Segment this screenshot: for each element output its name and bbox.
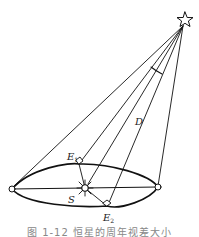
sight-line-e1 — [79, 26, 183, 164]
label-distance: D — [134, 116, 143, 127]
orbit-point-right — [155, 184, 161, 190]
figure-caption: 图 1-12 恒星的周年视差大小 — [0, 226, 199, 237]
label-e1: E1 — [66, 151, 78, 163]
parallax-diagram: E1 S E2 D — [0, 0, 199, 237]
sight-line-right — [158, 26, 183, 186]
sight-line-sun — [88, 26, 183, 184]
label-sun: S — [68, 194, 75, 205]
sight-line-left — [13, 26, 183, 187]
orbit-point-left — [9, 186, 15, 192]
sun-rays-icon — [77, 180, 93, 196]
parallax-angle-arc — [151, 67, 162, 74]
label-e2: E2 — [102, 212, 114, 224]
star-outline-icon — [177, 12, 193, 27]
